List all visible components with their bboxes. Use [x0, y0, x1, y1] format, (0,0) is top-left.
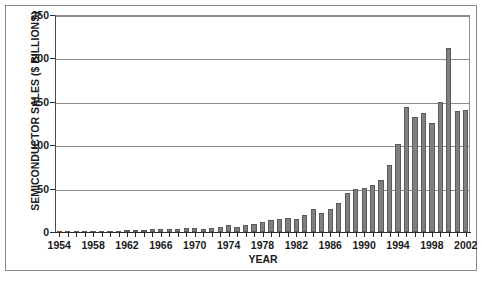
bar [234, 227, 239, 232]
bar [311, 209, 316, 232]
bar [370, 185, 375, 232]
x-axis-tick-mark [322, 233, 323, 237]
bar [302, 215, 307, 232]
x-axis-tick-mark [178, 233, 179, 237]
x-axis-tick-mark [390, 233, 391, 237]
x-axis-title: YEAR [55, 253, 471, 265]
x-axis-tick-mark [313, 233, 314, 237]
bar [336, 203, 341, 232]
x-axis-tick-mark [195, 233, 196, 237]
bar [218, 227, 223, 232]
y-axis-tick-label: 250 [19, 10, 49, 21]
bar [107, 231, 112, 232]
bar [192, 228, 197, 232]
x-axis-tick-mark [127, 233, 128, 237]
x-axis-tick-mark [305, 233, 306, 237]
y-axis-tick-label: 0 [19, 227, 49, 238]
x-axis-tick-labels: 1954195819621966197019741978198219861990… [0, 239, 491, 253]
x-axis-tick-mark [449, 233, 450, 237]
y-axis-tick-label: 150 [19, 97, 49, 108]
x-axis-tick-mark [152, 233, 153, 237]
bar [412, 117, 417, 232]
bar [74, 231, 79, 232]
x-axis-tick-mark [254, 233, 255, 237]
bar [378, 180, 383, 232]
y-axis-tick-mark [50, 145, 55, 146]
bar [201, 229, 206, 232]
bar [328, 209, 333, 232]
x-axis-tick-mark [59, 233, 60, 237]
x-axis-tick-mark [271, 233, 272, 237]
bar [319, 213, 324, 232]
y-axis-tick-mark [50, 102, 55, 103]
y-axis-tick-mark [50, 232, 55, 233]
bar [404, 107, 409, 232]
bar [421, 113, 426, 232]
x-axis-tick-mark [288, 233, 289, 237]
x-axis-tick-marks [55, 233, 471, 238]
x-axis-tick-mark [373, 233, 374, 237]
bar [141, 230, 146, 232]
x-axis-tick-mark [135, 233, 136, 237]
bar [395, 144, 400, 232]
bar [260, 222, 265, 232]
x-axis-tick-mark [423, 233, 424, 237]
x-axis-tick-mark [68, 233, 69, 237]
x-axis-tick-mark [330, 233, 331, 237]
bar [116, 231, 121, 232]
bar [268, 220, 273, 232]
x-axis-tick-mark [93, 233, 94, 237]
bar [463, 110, 468, 232]
bar [167, 229, 172, 232]
x-axis-tick-mark [161, 233, 162, 237]
y-axis-tick-label: 100 [19, 140, 49, 151]
bar [243, 225, 248, 232]
x-axis-tick-mark [220, 233, 221, 237]
bar [251, 224, 256, 232]
bar [209, 228, 214, 232]
bar [82, 231, 87, 232]
chart-figure: SEMICONDUCTOR SALES ($ BILLIONS) 0501001… [0, 0, 491, 287]
x-axis-tick-mark [279, 233, 280, 237]
bar [65, 231, 70, 232]
x-axis-tick-mark [203, 233, 204, 237]
x-axis-tick-label: 2002 [446, 239, 486, 252]
bar [150, 229, 155, 232]
bar [353, 189, 358, 232]
bar [345, 193, 350, 232]
x-axis-tick-mark [347, 233, 348, 237]
x-axis-tick-mark [296, 233, 297, 237]
x-axis-tick-mark [415, 233, 416, 237]
x-axis-tick-mark [263, 233, 264, 237]
x-axis-tick-mark [398, 233, 399, 237]
bar [99, 231, 104, 232]
bar [446, 48, 451, 232]
bar [438, 102, 443, 232]
bar [362, 188, 367, 232]
bar [226, 225, 231, 232]
x-axis-tick-mark [381, 233, 382, 237]
x-axis-tick-mark [246, 233, 247, 237]
x-axis-tick-mark [186, 233, 187, 237]
x-axis-tick-mark [406, 233, 407, 237]
x-axis-tick-mark [364, 233, 365, 237]
x-axis-tick-mark [432, 233, 433, 237]
bar [90, 231, 95, 232]
x-axis-tick-mark [119, 233, 120, 237]
y-axis-tick-mark [50, 189, 55, 190]
x-axis-tick-mark [110, 233, 111, 237]
y-axis-tick-mark [50, 58, 55, 59]
x-axis-tick-mark [440, 233, 441, 237]
bar [184, 228, 189, 232]
bar [57, 231, 62, 232]
bar [429, 123, 434, 232]
bar [387, 165, 392, 232]
bar-series [55, 15, 471, 232]
y-axis-tick-mark [50, 15, 55, 16]
x-axis-tick-mark [85, 233, 86, 237]
y-axis-tick-label: 50 [19, 183, 49, 194]
bar [455, 111, 460, 232]
bar [277, 219, 282, 232]
x-axis-tick-mark [102, 233, 103, 237]
x-axis-tick-mark [76, 233, 77, 237]
